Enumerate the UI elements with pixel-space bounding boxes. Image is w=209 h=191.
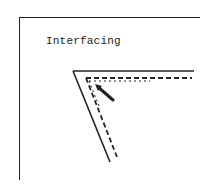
fabric-edge xyxy=(73,71,194,162)
arrow-icon xyxy=(98,87,113,100)
corner-illustration xyxy=(0,0,209,191)
